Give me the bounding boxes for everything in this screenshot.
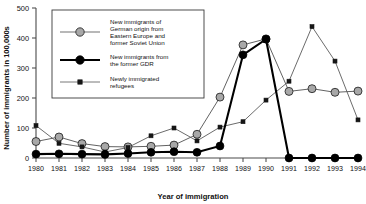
data-point-newly-immigrated-refugees bbox=[126, 146, 130, 150]
data-point-german-origin-immigrants bbox=[354, 87, 362, 95]
data-point-german-origin-immigrants bbox=[32, 138, 40, 146]
chart-canvas: 0100200300400500 19801981198219831984198… bbox=[0, 0, 366, 204]
data-point-former-gdr-immigrants bbox=[32, 150, 40, 158]
legend-label-0: German origin from bbox=[110, 25, 163, 32]
data-point-german-origin-immigrants bbox=[55, 133, 63, 141]
data-point-former-gdr-immigrants bbox=[216, 142, 224, 150]
legend-label-2: refugees bbox=[110, 82, 134, 89]
x-tick-label: 1983 bbox=[97, 165, 113, 173]
y-tick-label: 0 bbox=[25, 154, 29, 163]
legend-label-0: Eastern Europe and bbox=[110, 32, 166, 39]
data-point-german-origin-immigrants bbox=[308, 85, 316, 93]
legend-label-0: former Soviet Union bbox=[110, 39, 165, 46]
data-point-german-origin-immigrants bbox=[285, 87, 293, 95]
y-tick-label: 500 bbox=[17, 4, 29, 13]
y-tick-label: 100 bbox=[17, 124, 29, 133]
data-point-former-gdr-immigrants bbox=[308, 154, 316, 162]
data-point-newly-immigrated-refugees bbox=[149, 134, 153, 138]
x-tick-label: 1990 bbox=[258, 165, 274, 173]
x-tick-label: 1986 bbox=[166, 165, 182, 173]
data-point-german-origin-immigrants bbox=[101, 143, 109, 151]
x-tick-label: 1984 bbox=[120, 165, 136, 173]
data-point-newly-immigrated-refugees bbox=[218, 125, 222, 129]
data-point-newly-immigrated-refugees bbox=[172, 126, 176, 130]
data-point-former-gdr-immigrants bbox=[101, 151, 109, 159]
x-tick-label: 1982 bbox=[74, 165, 90, 173]
chart-legend: New immigrants ofGerman origin fromEaste… bbox=[52, 10, 204, 98]
data-point-former-gdr-immigrants bbox=[262, 35, 270, 43]
x-tick-label: 1987 bbox=[189, 165, 205, 173]
data-point-former-gdr-immigrants bbox=[147, 148, 155, 156]
x-tick-label: 1980 bbox=[28, 165, 44, 173]
x-tick-label: 1993 bbox=[327, 165, 343, 173]
data-point-newly-immigrated-refugees bbox=[264, 98, 268, 102]
data-point-newly-immigrated-refugees bbox=[356, 118, 360, 122]
x-tick-label: 1994 bbox=[350, 165, 366, 173]
x-tick-label: 1985 bbox=[143, 165, 159, 173]
legend-label-2: Newly immigrated bbox=[110, 75, 160, 82]
data-point-german-origin-immigrants bbox=[216, 93, 224, 101]
immigration-line-chart: 0100200300400500 19801981198219831984198… bbox=[0, 0, 366, 204]
data-point-newly-immigrated-refugees bbox=[241, 120, 245, 124]
x-tick-label: 1991 bbox=[281, 165, 297, 173]
legend-marker-0 bbox=[76, 28, 84, 36]
data-point-newly-immigrated-refugees bbox=[287, 79, 291, 83]
data-point-newly-immigrated-refugees bbox=[57, 141, 61, 145]
legend-marker-1 bbox=[76, 56, 84, 64]
x-axis-title: Year of immigration bbox=[158, 192, 229, 201]
data-point-former-gdr-immigrants bbox=[170, 148, 178, 156]
data-point-newly-immigrated-refugees bbox=[80, 145, 84, 149]
data-point-former-gdr-immigrants bbox=[239, 51, 247, 59]
data-point-newly-immigrated-refugees bbox=[333, 59, 337, 63]
legend-marker-2 bbox=[78, 80, 82, 84]
data-point-former-gdr-immigrants bbox=[78, 150, 86, 158]
data-point-former-gdr-immigrants bbox=[285, 154, 293, 162]
y-tick-label: 400 bbox=[17, 34, 29, 43]
data-point-german-origin-immigrants bbox=[239, 41, 247, 49]
data-point-former-gdr-immigrants bbox=[331, 154, 339, 162]
data-point-former-gdr-immigrants bbox=[55, 150, 63, 158]
legend-label-0: New immigrants of bbox=[110, 18, 162, 25]
data-point-former-gdr-immigrants bbox=[124, 150, 132, 158]
y-axis-title: Number of immigrants in 100,000s bbox=[2, 26, 11, 150]
y-tick-label: 300 bbox=[17, 64, 29, 73]
x-tick-label: 1988 bbox=[212, 165, 228, 173]
data-point-former-gdr-immigrants bbox=[354, 154, 362, 162]
x-tick-label: 1981 bbox=[51, 165, 67, 173]
data-point-german-origin-immigrants bbox=[331, 88, 339, 96]
y-tick-label: 200 bbox=[17, 94, 29, 103]
data-point-newly-immigrated-refugees bbox=[195, 139, 199, 143]
legend-label-1: New immigrants from bbox=[110, 53, 168, 60]
legend-label-1: the former GDR bbox=[110, 60, 154, 67]
x-tick-label: 1989 bbox=[235, 165, 251, 173]
data-point-newly-immigrated-refugees bbox=[310, 25, 314, 29]
x-tick-label: 1992 bbox=[304, 165, 320, 173]
data-point-newly-immigrated-refugees bbox=[34, 124, 38, 128]
data-point-german-origin-immigrants bbox=[193, 130, 201, 138]
data-point-former-gdr-immigrants bbox=[193, 148, 201, 156]
